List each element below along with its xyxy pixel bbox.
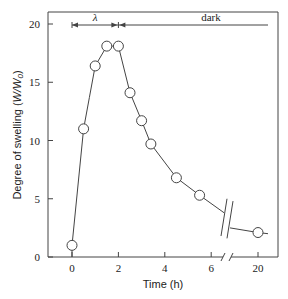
y-tick-label: 0 [35, 251, 41, 263]
y-axis-title: Degree of swelling (W/W0) [11, 70, 25, 199]
swelling-chart: 05101520 024620 λdark Time (h) Degree of… [0, 0, 288, 299]
data-point-marker [195, 190, 205, 200]
data-point-marker [102, 41, 112, 51]
y-tick-label: 10 [29, 135, 41, 147]
x-tick-label: 0 [69, 262, 75, 274]
dark-label: dark [201, 11, 221, 23]
y-axis: 05101520 [29, 18, 53, 263]
curve-break-mark [221, 199, 227, 236]
curve-break-mark [227, 201, 233, 238]
x-axis-title: Time (h) [143, 278, 184, 290]
data-series [67, 41, 268, 257]
x-tick-label: 6 [208, 262, 214, 274]
arrow-right-icon [111, 23, 117, 28]
y-tick-label: 15 [29, 76, 41, 88]
y-tick-label: 20 [29, 18, 41, 30]
lambda-label: λ [92, 11, 98, 23]
data-point-marker [125, 88, 135, 98]
period-annotations: λdark [72, 11, 268, 28]
data-point-marker [146, 139, 156, 149]
data-point-marker [171, 173, 181, 183]
x-tick-label: 20 [253, 262, 265, 274]
y-tick-label: 5 [35, 193, 41, 205]
y-axis-title-var: W/W [11, 77, 23, 102]
data-point-marker [253, 228, 263, 238]
data-point-marker [137, 116, 147, 126]
x-axis: 024620 [69, 252, 264, 274]
data-point-marker [90, 61, 100, 71]
data-point-marker [67, 240, 77, 250]
y-axis-title-suffix: ) [11, 70, 23, 74]
data-point-marker [113, 41, 123, 51]
y-axis-title-prefix: Degree of swelling ( [11, 102, 23, 200]
arrow-left-icon [72, 23, 78, 28]
x-tick-label: 2 [116, 262, 122, 274]
data-point-marker [79, 124, 89, 134]
x-tick-label: 4 [162, 262, 168, 274]
